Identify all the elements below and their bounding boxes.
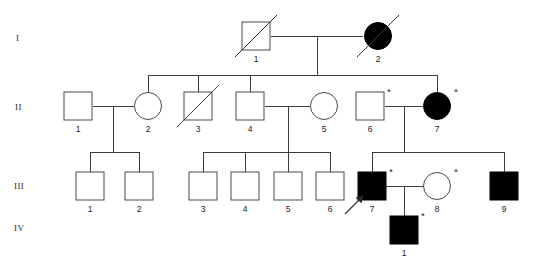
symbol-female-unaffected[interactable] (424, 173, 451, 200)
individual-I-2[interactable]: 2 (357, 15, 399, 64)
id-label-III-4: 4 (243, 204, 248, 214)
id-label-III-1: 1 (88, 204, 93, 214)
id-label-III-3: 3 (201, 204, 206, 214)
id-label-III-2: 2 (137, 204, 142, 214)
individual-II-7[interactable]: 7* (424, 87, 459, 134)
id-label-III-5: 5 (286, 204, 291, 214)
id-label-II-5: 5 (322, 124, 327, 134)
asterisk-marker-II-6: * (387, 87, 391, 97)
individual-II-5[interactable]: 5 (311, 93, 338, 135)
id-label-II-1: 1 (76, 124, 81, 134)
symbol-male-affected[interactable] (390, 216, 418, 244)
id-label-III-7: 7 (370, 204, 375, 214)
symbol-female-affected[interactable] (424, 93, 451, 120)
individual-III-7[interactable]: 7* (358, 167, 393, 214)
id-label-II-2: 2 (146, 124, 151, 134)
symbol-male-unaffected[interactable] (64, 92, 92, 120)
asterisk-marker-II-7: * (454, 87, 458, 97)
deceased-slash-I-2 (357, 15, 399, 57)
id-label-III-8: 8 (435, 204, 440, 214)
symbol-male-unaffected[interactable] (231, 172, 259, 200)
individual-III-6[interactable]: 6 (316, 172, 344, 214)
individual-III-2[interactable]: 2 (125, 172, 153, 214)
symbol-male-unaffected[interactable] (316, 172, 344, 200)
individual-II-3[interactable]: 3 (177, 85, 219, 134)
generation-labels-group: IIIIIIIV (14, 33, 24, 233)
individual-symbols-group: 12123456*7*1234567*8*91* (64, 15, 518, 258)
proband-marker-group (345, 196, 363, 214)
individual-II-4[interactable]: 4 (236, 92, 264, 134)
individual-II-1[interactable]: 1 (64, 92, 92, 134)
individual-III-4[interactable]: 4 (231, 172, 259, 214)
symbol-male-unaffected[interactable] (189, 172, 217, 200)
deceased-slash-I-1 (235, 15, 277, 57)
id-label-II-6: 6 (368, 124, 373, 134)
individual-III-8[interactable]: 8* (424, 167, 459, 214)
asterisk-marker-III-7: * (389, 167, 393, 177)
individual-III-9[interactable]: 9 (490, 172, 518, 214)
individual-I-1[interactable]: 1 (235, 15, 277, 64)
gen-IV-label: IV (14, 223, 24, 233)
symbol-male-unaffected[interactable] (356, 92, 384, 120)
symbol-male-affected[interactable] (358, 172, 386, 200)
individual-III-5[interactable]: 5 (274, 172, 302, 214)
asterisk-marker-III-8: * (454, 167, 458, 177)
symbol-female-unaffected[interactable] (135, 93, 162, 120)
individual-III-3[interactable]: 3 (189, 172, 217, 214)
asterisk-marker-IV-1: * (421, 211, 425, 221)
id-label-IV-1: 1 (402, 248, 407, 258)
gen-I-label: I (16, 33, 19, 43)
gen-II-label: II (15, 102, 22, 112)
symbol-male-unaffected[interactable] (236, 92, 264, 120)
id-label-I-2: 2 (376, 54, 381, 64)
gen-III-label: III (14, 181, 24, 191)
symbol-male-affected[interactable] (490, 172, 518, 200)
id-label-III-9: 9 (502, 204, 507, 214)
pedigree-chart: 12123456*7*1234567*8*91* IIIIIIIV (0, 0, 537, 261)
individual-II-2[interactable]: 2 (135, 93, 162, 135)
symbol-male-unaffected[interactable] (125, 172, 153, 200)
id-label-III-6: 6 (328, 204, 333, 214)
id-label-II-7: 7 (435, 124, 440, 134)
individual-III-1[interactable]: 1 (76, 172, 104, 214)
symbol-male-unaffected[interactable] (76, 172, 104, 200)
individual-II-6[interactable]: 6* (356, 87, 391, 134)
individual-IV-1[interactable]: 1* (390, 211, 425, 258)
id-label-II-3: 3 (196, 124, 201, 134)
symbol-male-unaffected[interactable] (274, 172, 302, 200)
symbol-female-unaffected[interactable] (311, 93, 338, 120)
pedigree-canvas: 12123456*7*1234567*8*91* IIIIIIIV (0, 0, 537, 261)
id-label-I-1: 1 (254, 54, 259, 64)
id-label-II-4: 4 (248, 124, 253, 134)
